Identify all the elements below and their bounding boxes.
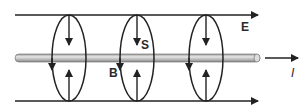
field-diagram — [0, 0, 307, 108]
diagram: E S B I — [0, 0, 307, 108]
label-b: B — [109, 66, 118, 80]
label-i: I — [291, 66, 294, 80]
label-s: S — [141, 38, 149, 52]
label-e: E — [241, 20, 249, 34]
